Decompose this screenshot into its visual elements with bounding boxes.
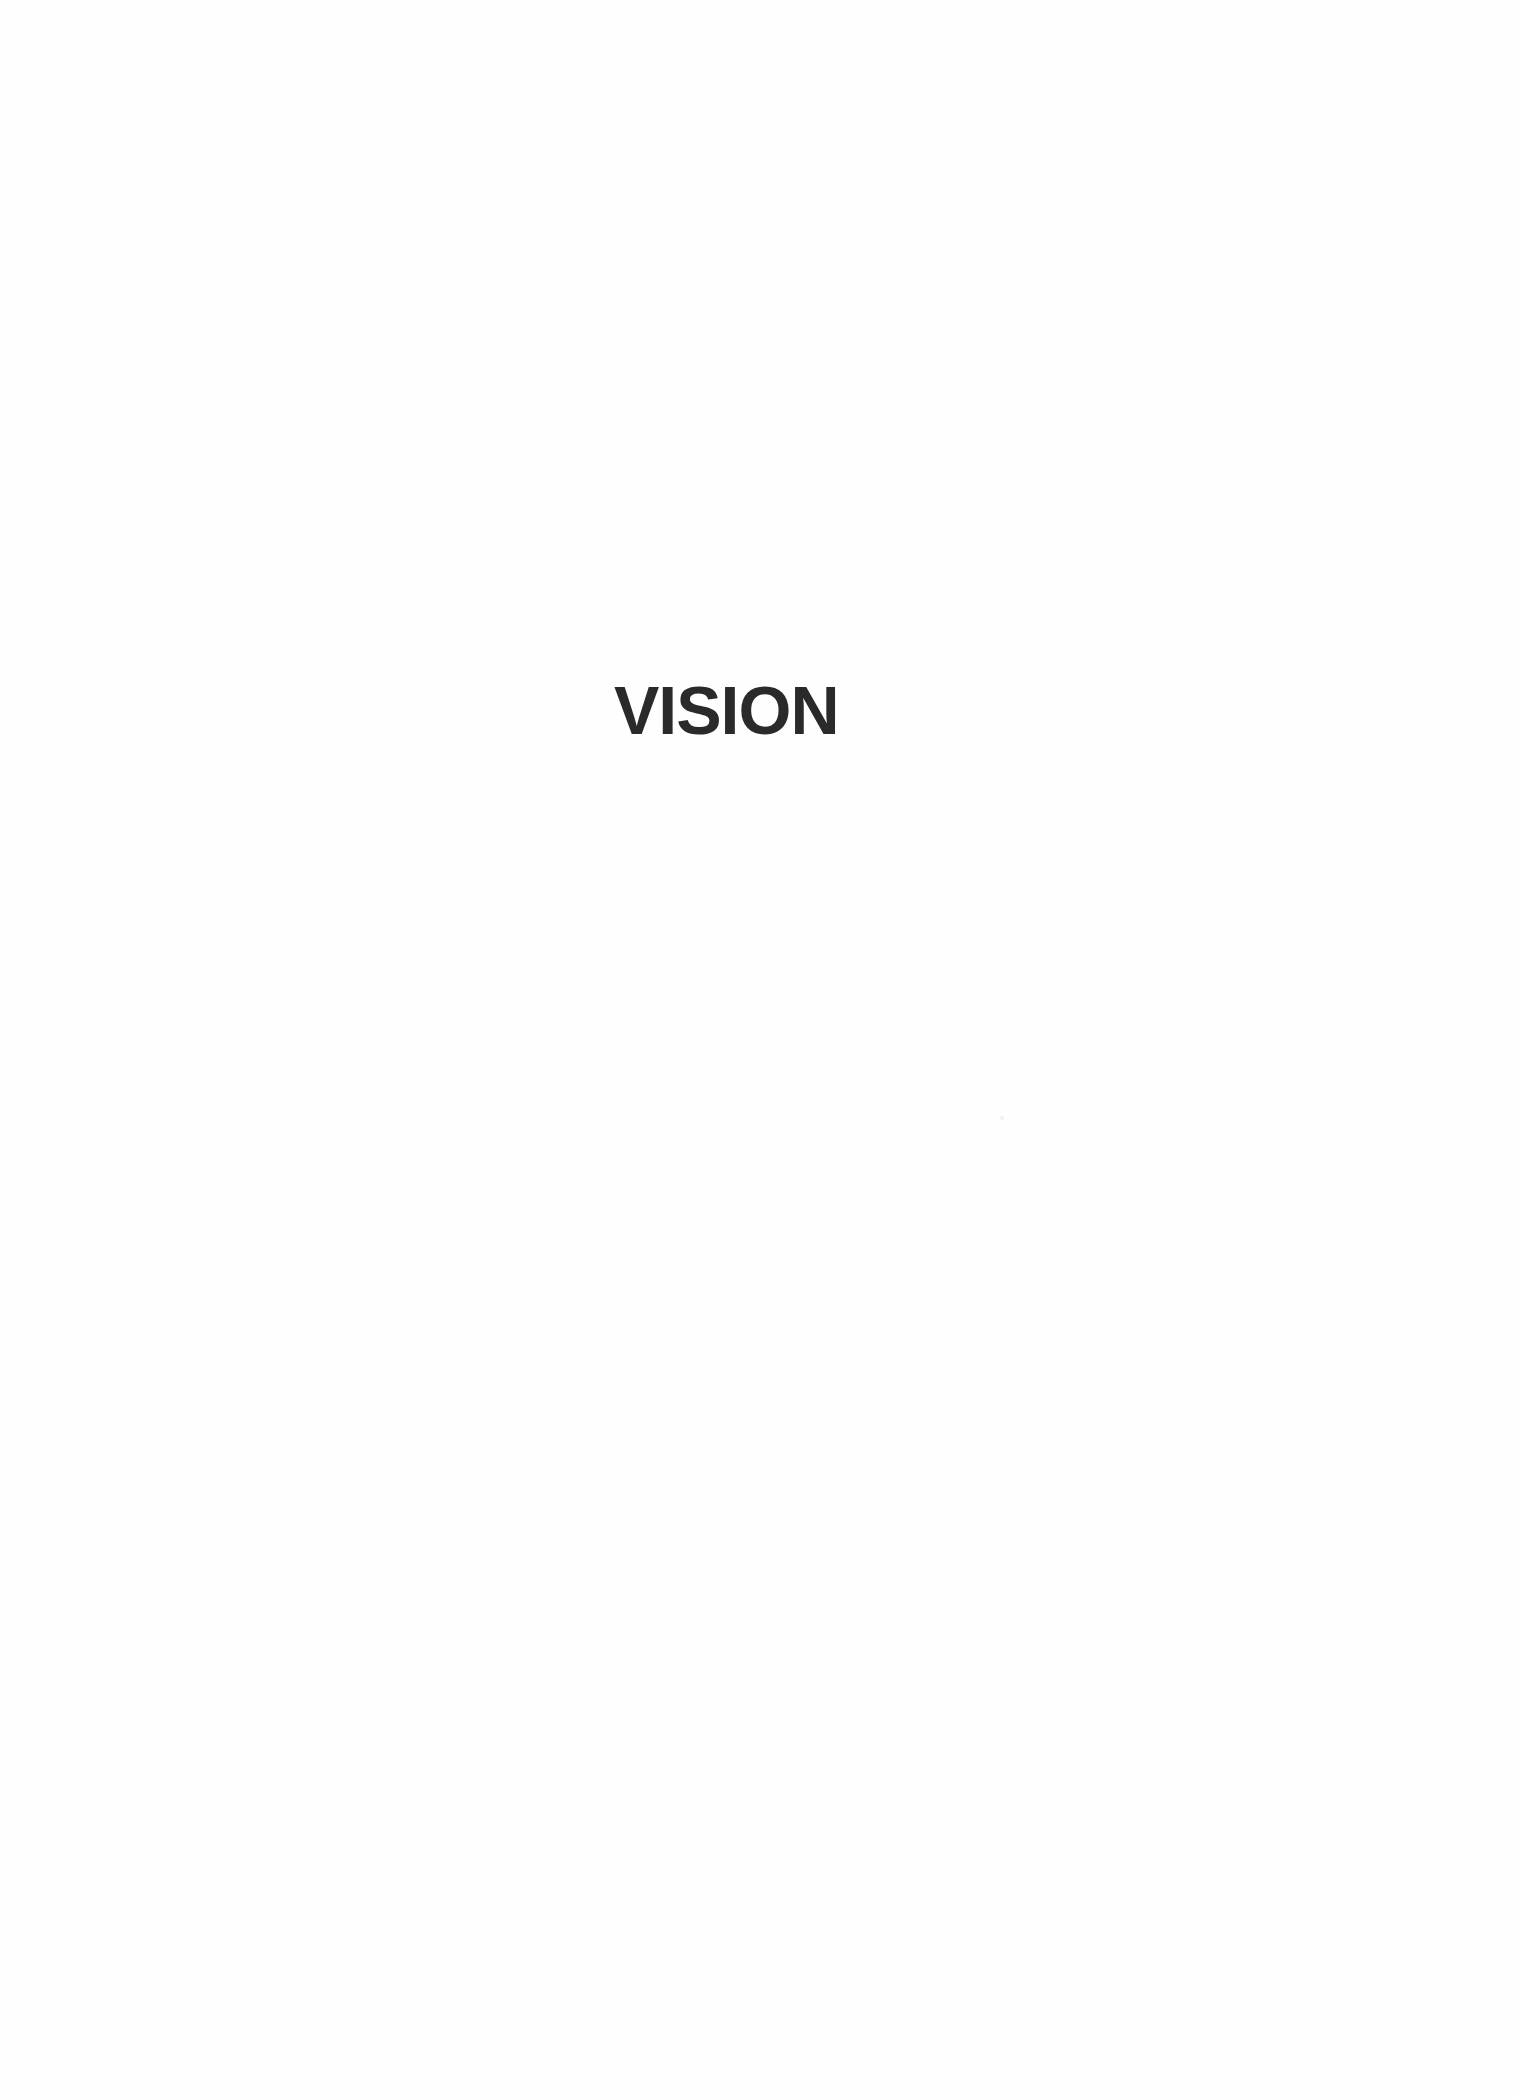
page-heading: VISION (614, 676, 839, 744)
scan-artifact (1000, 1116, 1004, 1120)
document-page: VISION (0, 0, 1518, 2098)
